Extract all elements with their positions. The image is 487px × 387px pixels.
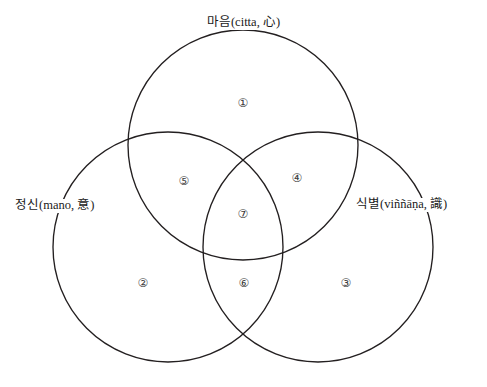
region-marker-2: ② — [138, 276, 149, 290]
set-label-vinnana: 식별(viññāṇa, 識) — [355, 198, 448, 212]
region-marker-6: ⑥ — [239, 276, 250, 290]
region-marker-4: ④ — [292, 171, 303, 185]
region-marker-1: ① — [238, 96, 249, 110]
venn-circle-vinnana — [203, 132, 433, 362]
venn-diagram-figure: 마음(citta, 心) 정신(mano, 意) 식별(viññāṇa, 識) … — [0, 0, 487, 387]
venn-circles-svg — [0, 0, 487, 387]
set-label-mano: 정신(mano, 意) — [14, 199, 95, 213]
set-label-citta: 마음(citta, 心) — [206, 16, 281, 30]
region-marker-5: ⑤ — [179, 174, 190, 188]
region-marker-7: ⑦ — [238, 207, 249, 221]
venn-circle-mano — [53, 132, 283, 362]
region-marker-3: ③ — [341, 276, 352, 290]
venn-circle-citta — [128, 30, 358, 260]
